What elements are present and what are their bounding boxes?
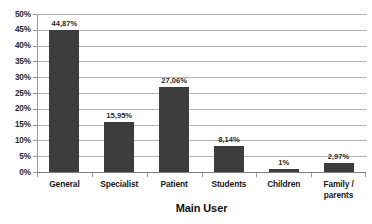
x-axis-category-line: General	[37, 179, 92, 190]
bar-value-label: 1%	[278, 158, 289, 167]
bar-value-label: 44,87%	[52, 19, 78, 28]
y-axis-tick-label: 45%	[0, 25, 31, 34]
x-axis-category-label: Patient	[147, 179, 202, 190]
y-axis-tick-label: 20%	[0, 104, 31, 113]
x-axis-category-line: Family /	[311, 179, 366, 190]
x-axis-category-label: Children	[256, 179, 311, 190]
y-axis-tick-label: 15%	[0, 120, 31, 129]
bars-layer: 44,87%15,95%27,06%8,14%1%2,97%	[37, 14, 366, 172]
bar-value-label: 8,14%	[218, 135, 240, 144]
bar-slot: 8,14%	[202, 14, 257, 172]
x-axis-category-line: Children	[256, 179, 311, 190]
bar[interactable]	[214, 146, 244, 172]
bar[interactable]	[324, 163, 354, 172]
bar-slot: 1%	[256, 14, 311, 172]
y-axis-tick-label: 25%	[0, 89, 31, 98]
x-axis-category-label: General	[37, 179, 92, 190]
bar-slot: 15,95%	[92, 14, 147, 172]
x-axis-category-label: Students	[202, 179, 257, 190]
x-axis-category-line: Students	[202, 179, 257, 190]
bar[interactable]	[159, 87, 189, 173]
x-axis-title: Main User	[37, 202, 366, 214]
bar[interactable]	[104, 122, 134, 172]
x-axis-ticks	[37, 173, 366, 177]
bar-value-label: 2,97%	[328, 152, 350, 161]
y-axis: 50%45%40%35%30%25%20%15%10%5%0%	[0, 0, 36, 180]
bar-slot: 27,06%	[147, 14, 202, 172]
bar-value-label: 27,06%	[161, 76, 187, 85]
x-axis-tick-mark	[202, 173, 203, 177]
x-axis-tick-mark	[311, 173, 312, 177]
x-axis-category-label: Specialist	[92, 179, 147, 190]
y-axis-tick-label: 50%	[0, 10, 31, 19]
x-axis-tick-mark	[92, 173, 93, 177]
x-axis-tick-mark	[37, 173, 38, 177]
bar-value-label: 15,95%	[106, 111, 132, 120]
x-axis-tick-mark	[365, 173, 366, 177]
bar-slot: 2,97%	[311, 14, 366, 172]
y-axis-tick-label: 5%	[0, 152, 31, 161]
x-axis-tick-mark	[147, 173, 148, 177]
y-axis-tick-label: 30%	[0, 73, 31, 82]
x-axis-category-line: Patient	[147, 179, 202, 190]
bar-chart: 50%45%40%35%30%25%20%15%10%5%0% 44,87%15…	[0, 0, 372, 224]
x-axis-category-line: Specialist	[92, 179, 147, 190]
bar[interactable]	[49, 30, 79, 172]
x-axis-tick-mark	[256, 173, 257, 177]
y-axis-tick-label: 0%	[0, 168, 31, 177]
y-axis-tick-label: 10%	[0, 136, 31, 145]
bar[interactable]	[269, 169, 299, 172]
y-axis-tick-label: 40%	[0, 41, 31, 50]
x-axis-category-label: Family /parents	[311, 179, 366, 200]
x-axis-category-line: parents	[311, 190, 366, 201]
bar-slot: 44,87%	[37, 14, 92, 172]
y-axis-tick-label: 35%	[0, 57, 31, 66]
